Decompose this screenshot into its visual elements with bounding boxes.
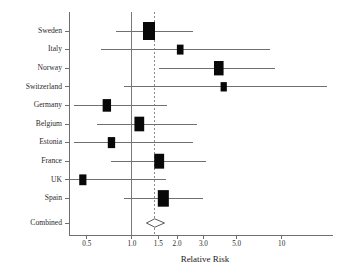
study-label-france: France [41,156,62,165]
study-label-italy: Italy [48,44,62,53]
x-tick-label-5: 5.0 [232,240,241,248]
study-marker-uk [79,174,86,185]
study-label-germany: Germany [34,100,62,109]
study-marker-switzerland [221,82,227,91]
study-label-norway: Norway [38,63,63,72]
axes-group [65,12,333,239]
forest-plot-figure: SwedenItalyNorwaySwitzerlandGermanyBelgi… [0,0,351,277]
study-label-group: SwedenItalyNorwaySwitzerlandGermanyBelgi… [26,26,63,227]
x-tick-label-2: 2.0 [173,240,182,248]
study-marker-spain [158,190,169,207]
confidence-interval-group [69,31,327,198]
x-tick-label-1-5: 1.5 [154,240,163,248]
study-label-combined: Combined [30,218,62,227]
study-label-spain: Spain [45,193,63,202]
study-marker-sweden [143,22,155,40]
study-label-sweden: Sweden [38,26,62,35]
study-marker-france [154,154,164,169]
x-axis-title: Relative Risk [181,254,230,264]
study-label-uk: UK [51,175,62,184]
forest-plot-canvas: SwedenItalyNorwaySwitzerlandGermanyBelgi… [0,0,351,277]
study-label-belgium: Belgium [36,119,62,128]
x-tick-label-3: 3.0 [199,240,208,248]
study-label-estonia: Estonia [39,137,62,146]
study-marker-germany [103,99,111,112]
study-marker-belgium [134,117,144,132]
x-tick-label-group: 0.51.01.52.03.05.010 [82,240,285,248]
study-marker-group [79,22,227,227]
study-label-switzerland: Switzerland [26,82,62,91]
study-marker-estonia [108,137,115,148]
x-tick-label-1: 1.0 [127,240,136,248]
study-marker-italy [177,45,184,55]
study-marker-norway [214,61,224,75]
x-tick-label-0-5: 0.5 [82,240,91,248]
combined-diamond-marker [146,219,164,227]
x-tick-label-10: 10 [278,240,286,248]
